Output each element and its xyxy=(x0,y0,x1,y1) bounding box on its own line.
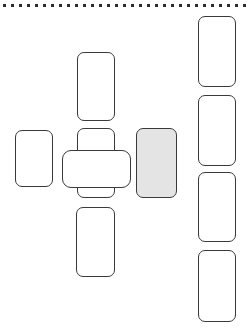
rule-dot xyxy=(195,4,198,7)
rule-dot xyxy=(43,4,46,7)
rule-dot xyxy=(115,4,118,7)
rule-dot xyxy=(219,4,222,7)
center-bottom-card[interactable] xyxy=(76,207,115,277)
rule-dot xyxy=(179,4,182,7)
rule-dot xyxy=(11,4,14,7)
rule-dot xyxy=(107,4,110,7)
rule-dot xyxy=(3,4,6,7)
rule-dot xyxy=(27,4,30,7)
rule-dot xyxy=(243,4,246,7)
rule-dot xyxy=(83,4,86,7)
rule-dot xyxy=(99,4,102,7)
right-highlight-card[interactable] xyxy=(136,128,177,198)
rule-dot xyxy=(235,4,238,7)
column-card-2[interactable] xyxy=(198,95,236,166)
rule-dot xyxy=(227,4,230,7)
rule-dot xyxy=(19,4,22,7)
rule-dot xyxy=(171,4,174,7)
rule-dot xyxy=(75,4,78,7)
wireframe-canvas xyxy=(0,0,252,336)
rule-dot xyxy=(187,4,190,7)
rule-dot xyxy=(203,4,206,7)
rule-dot xyxy=(35,4,38,7)
rule-dot xyxy=(139,4,142,7)
rule-dot xyxy=(155,4,158,7)
column-card-1[interactable] xyxy=(198,16,236,87)
rule-dot xyxy=(211,4,214,7)
rule-dot xyxy=(131,4,134,7)
rule-dot xyxy=(59,4,62,7)
rule-dot xyxy=(147,4,150,7)
rule-dot xyxy=(67,4,70,7)
center-top-card[interactable] xyxy=(77,52,115,121)
rule-dot xyxy=(163,4,166,7)
center-horizontal-card[interactable] xyxy=(62,150,131,188)
column-card-3[interactable] xyxy=(198,172,236,242)
column-card-4[interactable] xyxy=(198,250,236,322)
rule-dot xyxy=(91,4,94,7)
rule-dot xyxy=(123,4,126,7)
left-card[interactable] xyxy=(15,130,53,187)
top-dotted-rule xyxy=(0,0,252,12)
rule-dot xyxy=(51,4,54,7)
